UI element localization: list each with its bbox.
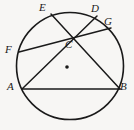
figure-canvas — [0, 0, 134, 130]
point-label-b: B — [120, 81, 127, 92]
point-label-a: A — [7, 81, 14, 92]
circle-geometry-figure: E D G F C A B — [0, 0, 134, 130]
point-label-d: D — [91, 3, 99, 14]
point-label-f: F — [5, 44, 12, 55]
circle-center-dot — [65, 65, 69, 69]
point-label-e: E — [39, 2, 46, 13]
point-label-c: C — [65, 39, 72, 50]
point-label-g: G — [104, 16, 112, 27]
